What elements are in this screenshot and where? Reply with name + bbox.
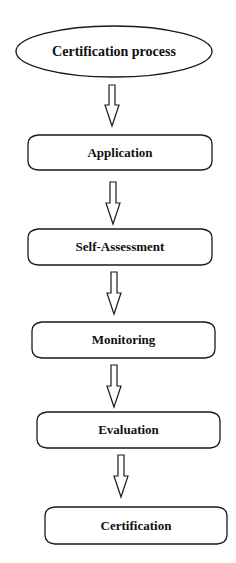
arrow-down-icon (105, 85, 119, 126)
certification-flowchart (0, 0, 236, 563)
arrow-down-icon (106, 182, 120, 224)
arrow-down-icon (107, 272, 121, 314)
step-node-self-assessment-shape (28, 229, 212, 265)
step-node-application-shape (28, 135, 212, 170)
arrow-down-icon (107, 365, 121, 407)
step-node-evaluation-shape (37, 412, 220, 448)
arrow-down-icon (114, 455, 128, 497)
start-node-ellipse (16, 26, 212, 77)
step-node-monitoring-shape (32, 322, 215, 358)
step-node-certification-shape (45, 507, 227, 544)
